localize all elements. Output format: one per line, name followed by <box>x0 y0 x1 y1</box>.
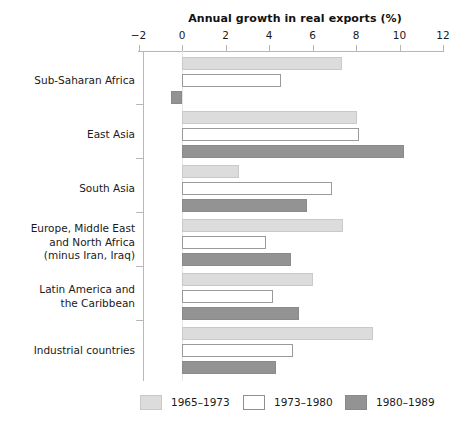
bar <box>182 145 404 158</box>
x-axis-tick-label: −2 <box>131 29 146 41</box>
bar <box>182 253 291 266</box>
bar <box>182 165 239 178</box>
legend-label: 1973–1980 <box>274 396 333 408</box>
category-separator-tick <box>136 104 144 105</box>
chart-legend: 1965–19731973–19801980–1989 <box>0 392 467 418</box>
x-axis-tick <box>269 45 270 52</box>
x-axis-line <box>138 51 443 52</box>
category-label: Industrial countries <box>34 344 135 358</box>
bar <box>182 219 343 232</box>
category-label: Sub-Saharan Africa <box>34 74 135 88</box>
x-axis-tick-label: 12 <box>436 29 449 41</box>
bar <box>182 111 357 124</box>
x-axis-tick <box>400 45 401 52</box>
legend-item[interactable]: 1980–1989 <box>345 392 435 412</box>
y-axis-line <box>143 51 144 381</box>
legend-swatch-icon <box>140 395 162 410</box>
category-label: Latin America and the Caribbean <box>39 283 135 310</box>
category-label: East Asia <box>87 128 135 142</box>
bar <box>182 128 359 141</box>
bar <box>182 344 293 357</box>
bar <box>182 327 373 340</box>
legend-swatch-icon <box>243 395 265 410</box>
category-separator-tick <box>136 158 144 159</box>
legend-item[interactable]: 1973–1980 <box>243 392 333 412</box>
bar <box>171 91 182 104</box>
category-label: Europe, Middle East and North Africa (mi… <box>31 222 135 263</box>
x-axis-tick <box>313 45 314 52</box>
chart-title: Annual growth in real exports (%) <box>140 12 450 25</box>
bar <box>182 199 307 212</box>
bar <box>182 307 299 320</box>
x-axis-tick-label: 4 <box>266 29 273 41</box>
legend-label: 1980–1989 <box>376 396 435 408</box>
x-axis-tick <box>443 45 444 52</box>
x-axis-tick-label: 6 <box>309 29 316 41</box>
bar <box>182 290 273 303</box>
category-separator-tick <box>136 320 144 321</box>
x-axis-tick-label: 2 <box>222 29 229 41</box>
x-axis-tick-label: 0 <box>179 29 186 41</box>
bar <box>182 361 276 374</box>
legend-label: 1965–1973 <box>171 396 230 408</box>
x-axis-tick-label: 8 <box>353 29 360 41</box>
bar <box>182 57 342 70</box>
x-axis-tick-label: 10 <box>393 29 406 41</box>
category-label: South Asia <box>79 182 135 196</box>
category-separator-tick <box>136 266 144 267</box>
bar <box>182 182 332 195</box>
bar <box>182 273 313 286</box>
bar <box>182 74 281 87</box>
legend-swatch-icon <box>345 395 367 410</box>
x-axis-tick <box>226 45 227 52</box>
legend-item[interactable]: 1965–1973 <box>140 392 230 412</box>
x-axis-tick <box>139 45 140 52</box>
bar-chart: Annual growth in real exports (%) −20246… <box>0 0 467 438</box>
category-separator-tick <box>136 212 144 213</box>
x-axis-tick <box>356 45 357 52</box>
bar <box>182 236 266 249</box>
